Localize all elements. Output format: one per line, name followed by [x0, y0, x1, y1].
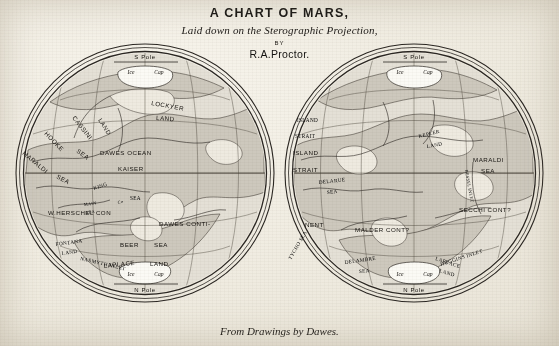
- label-lockyer-land: LAND: [156, 114, 175, 122]
- label-cap-bottom: Cap: [423, 271, 433, 277]
- page-subtitle: Laid down on the Sterographic Projection…: [0, 24, 559, 36]
- page-title: A CHART OF MARS,: [0, 6, 559, 20]
- left-hemisphere: S Pole N Pole Ice Cap Ice Cap CASSINI LA…: [14, 42, 276, 304]
- label-delambre-sea: SEA: [359, 267, 370, 274]
- label-malder: MALDER CONT?: [355, 226, 410, 233]
- label-ice-top: Ice: [127, 69, 135, 75]
- label-beer-sea: SEA: [154, 241, 168, 248]
- label-w-herschel: W.HERSCHEL CON: [48, 209, 111, 216]
- label-secchi: SECCHI CONT?: [459, 206, 511, 213]
- label-co-sea: SEA: [130, 195, 141, 201]
- label-ice-bottom: Ice: [127, 271, 135, 277]
- label-ice-bottom: Ice: [396, 271, 404, 277]
- label-strait-a: STRAIT: [295, 133, 316, 139]
- label-dawes-ocean: DAWES OCEAN: [100, 149, 152, 156]
- label-delarue-sea: SEA: [326, 188, 337, 195]
- label-beer: BEER: [120, 241, 139, 248]
- label-s-pole: S Pole: [134, 54, 155, 60]
- label-n-pole: N Pole: [403, 287, 425, 293]
- label-s-pole: S Pole: [403, 54, 424, 60]
- label-n-pole: N Pole: [134, 287, 156, 293]
- chart-sheet: A CHART OF MARS, Laid down on the Sterog…: [0, 0, 559, 346]
- label-cap-top: Cap: [154, 69, 164, 75]
- label-ice-top: Ice: [396, 69, 404, 75]
- label-strait-b: STRAIT: [293, 166, 318, 173]
- right-hemisphere: S Pole N Pole Ice Cap Ice Cap JACOB ARAG…: [283, 42, 545, 304]
- credit-line: From Drawings by Dawes.: [0, 325, 559, 337]
- label-cap-top: Cap: [423, 69, 433, 75]
- label-tycho: TYCHO SEA: [287, 230, 308, 261]
- label-island-b: ISLAND: [293, 149, 318, 156]
- label-nent: NENT: [305, 221, 324, 228]
- label-island-a: ISLAND: [297, 117, 318, 123]
- label-laplace-land: LAND: [150, 260, 169, 267]
- label-maraldi-r-sea: SEA: [481, 167, 495, 174]
- label-maraldi-r: MARALDI: [473, 156, 504, 163]
- label-kaiser: KAISER: [118, 165, 144, 172]
- label-dawes-conti: DAWES CONTI-: [159, 220, 211, 227]
- label-cap-bottom: Cap: [154, 271, 164, 277]
